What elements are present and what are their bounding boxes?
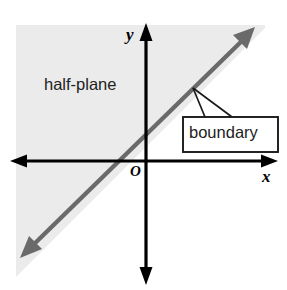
boundary-callout-label: boundary (189, 124, 258, 141)
half-plane-label: half-plane (44, 76, 116, 93)
callout-leader-line (193, 88, 232, 117)
origin-label: O (130, 164, 141, 179)
x-axis-label: x (262, 168, 271, 185)
y-axis-label: y (126, 26, 134, 43)
diagram-canvas (0, 0, 287, 290)
half-plane-diagram: half-plane y x O boundary (0, 0, 287, 290)
